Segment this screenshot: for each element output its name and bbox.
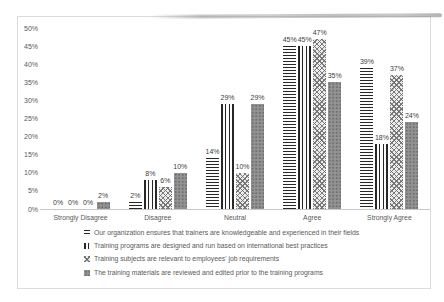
bar-value-label: 37%: [384, 65, 410, 73]
bar-series2-agree: [298, 46, 311, 209]
bar-value-label: 35%: [322, 72, 348, 80]
legend-marker-icon: [84, 256, 90, 262]
y-axis-tick-label: 0%: [6, 206, 38, 213]
bar-series4-disagree: [174, 173, 187, 209]
legend-item: Our organization ensures that trainers a…: [84, 229, 359, 237]
bar-series1-disagree: [129, 202, 142, 209]
bar-series4-agree: [328, 82, 341, 209]
chart-legend: Our organization ensures that trainers a…: [84, 229, 359, 282]
legend-item: The training materials are reviewed and …: [84, 269, 359, 277]
legend-item: Training subjects are relevant to employ…: [84, 255, 359, 263]
y-axis-tick-label: 40%: [6, 61, 38, 68]
bar-series4-neutral: [251, 104, 264, 209]
bar-series3-strongly-agree: [390, 75, 403, 209]
y-axis-tick-label: 25%: [6, 115, 38, 122]
bar-series4-strongly-agree: [405, 122, 418, 209]
x-axis-category-label: Strongly Disagree: [42, 214, 120, 222]
bar-series4-strongly-disagree: [97, 202, 110, 209]
x-axis-category-label: Neutral: [196, 214, 274, 222]
legend-item-label: Training subjects are relevant to employ…: [94, 255, 279, 263]
bar-value-label: 29%: [215, 94, 241, 102]
x-axis-line: [40, 209, 430, 210]
legend-marker-icon: [84, 270, 90, 276]
x-axis-category-label: Agree: [273, 214, 351, 222]
x-axis-category-label: Strongly Agree: [350, 214, 428, 222]
legend-item-label: Our organization ensures that trainers a…: [94, 229, 359, 237]
legend-marker-icon: [84, 230, 90, 236]
bar-value-label: 29%: [245, 94, 271, 102]
y-axis-tick-label: 50%: [6, 25, 38, 32]
bar-series3-neutral: [236, 173, 249, 209]
y-axis-tick-label: 30%: [6, 97, 38, 104]
legend-item: Training programs are designed and run b…: [84, 242, 359, 250]
bar-value-label: 47%: [307, 29, 333, 37]
x-axis-category-label: Disagree: [119, 214, 197, 222]
bar-series1-agree: [283, 46, 296, 209]
bar-value-label: 10%: [167, 163, 193, 171]
y-axis-tick-label: 5%: [6, 187, 38, 194]
bar-series2-neutral: [221, 104, 234, 209]
bar-value-label: 2%: [90, 192, 116, 200]
y-axis-tick-label: 45%: [6, 43, 38, 50]
page: 0%5%10%15%20%25%30%35%40%45%50% 0%0%0%2%…: [0, 0, 444, 302]
bar-value-label: 24%: [399, 112, 425, 120]
y-axis-tick-label: 20%: [6, 133, 38, 140]
legend-marker-icon: [84, 243, 90, 249]
y-axis-tick-label: 10%: [6, 169, 38, 176]
bar-series1-neutral: [206, 158, 219, 209]
legend-item-label: Training programs are designed and run b…: [94, 242, 328, 250]
y-axis-tick-label: 15%: [6, 151, 38, 158]
bar-series3-disagree: [159, 187, 172, 209]
bar-series3-agree: [313, 39, 326, 209]
y-axis-tick-label: 35%: [6, 79, 38, 86]
legend-item-label: The training materials are reviewed and …: [94, 269, 323, 277]
bar-series2-strongly-agree: [375, 144, 388, 209]
bar-value-label: 39%: [354, 58, 380, 66]
